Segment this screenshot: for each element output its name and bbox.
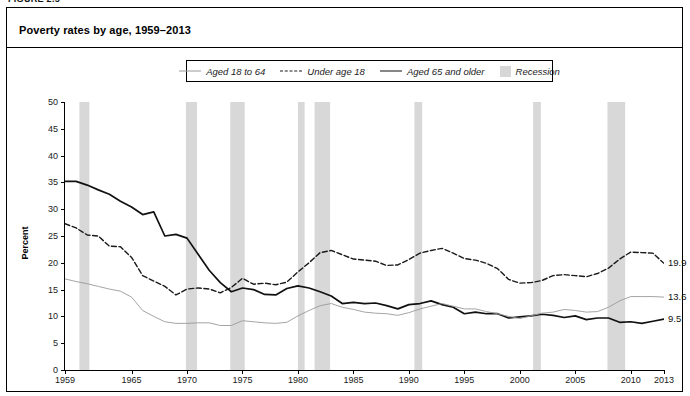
recession-band: [230, 102, 244, 370]
recession-band: [315, 102, 331, 370]
x-axis-tick-label: 1980: [288, 375, 308, 385]
aged-18-64-end-label: 13.6: [668, 291, 687, 302]
y-axis-tick-label: 30: [38, 204, 58, 214]
title-divider: [7, 47, 682, 48]
recession-band: [607, 102, 625, 370]
x-axis-tick-label: 1975: [232, 375, 252, 385]
x-axis-tick-label: 2000: [510, 375, 530, 385]
y-axis-tick-label: 0: [38, 365, 58, 375]
legend-label: Recession: [516, 66, 560, 77]
y-axis-tick-label: 40: [38, 151, 58, 161]
x-axis-tick-mark: [631, 370, 632, 374]
y-axis-tick-label: 15: [38, 285, 58, 295]
x-axis-tick-label: 1990: [399, 375, 419, 385]
plot-area: [65, 102, 664, 370]
y-axis-tick-label: 50: [38, 97, 58, 107]
series-line: [65, 279, 664, 326]
y-axis-tick-label: 25: [38, 231, 58, 241]
y-axis-tick-label: 35: [38, 177, 58, 187]
line-solid-icon: [380, 68, 402, 74]
y-axis-tick-label: 20: [38, 258, 58, 268]
legend-item-aged-65-and-older[interactable]: Aged 65 and older: [380, 66, 485, 77]
y-axis-tick-label: 45: [38, 124, 58, 134]
x-axis-tick-label: 1965: [122, 375, 142, 385]
figure-root: FIGURE 2.5 Poverty rates by age, 1959–20…: [0, 0, 690, 396]
line-thin-icon: [179, 68, 201, 74]
legend-label: Aged 65 and older: [407, 66, 485, 77]
x-axis-tick-mark: [132, 370, 133, 374]
chart-canvas: [65, 102, 664, 370]
series-line: [65, 181, 664, 323]
x-axis-tick-mark: [65, 370, 66, 374]
x-axis-tick-mark: [298, 370, 299, 374]
recession-band: [414, 102, 422, 370]
x-axis-tick-mark: [353, 370, 354, 374]
recession-band: [533, 102, 541, 370]
x-axis-tick-label: 1985: [343, 375, 363, 385]
legend-item-under-age-18[interactable]: Under age 18: [280, 66, 365, 77]
x-axis-tick-mark: [575, 370, 576, 374]
figure-number: FIGURE 2.5: [8, 0, 60, 4]
x-axis-tick-mark: [242, 370, 243, 374]
x-axis-tick-label: 2005: [565, 375, 585, 385]
x-axis-tick-mark: [464, 370, 465, 374]
y-axis-tick-label: 10: [38, 311, 58, 321]
y-axis-tick-label: 5: [38, 338, 58, 348]
y-axis-title: Percent: [18, 208, 32, 278]
recession-band: [298, 102, 305, 370]
x-axis-tick-label: 2010: [621, 375, 641, 385]
aged-65-older-end-label: 9.5: [668, 313, 681, 324]
x-axis-tick-label: 1995: [454, 375, 474, 385]
page-title: Poverty rates by age, 1959–2013: [19, 24, 191, 36]
x-axis-tick-mark: [187, 370, 188, 374]
legend-item-aged-18-to-64[interactable]: Aged 18 to 64: [179, 66, 265, 77]
legend-item-recession[interactable]: Recession: [500, 66, 560, 77]
series-line: [65, 224, 664, 295]
x-axis-tick-mark: [520, 370, 521, 374]
recession-band: [186, 102, 197, 370]
legend-label: Aged 18 to 64: [206, 66, 265, 77]
legend-label: Under age 18: [307, 66, 365, 77]
x-axis-tick-mark: [409, 370, 410, 374]
x-axis-tick-label: 2013: [654, 375, 674, 385]
x-axis-tick-mark: [664, 370, 665, 374]
shaded-box-icon: [500, 66, 511, 77]
under-18-end-label: 19.9: [668, 257, 687, 268]
chart-legend: Aged 18 to 64 Under age 18 Aged 65 and o…: [186, 60, 553, 82]
x-axis-tick-label: 1959: [55, 375, 75, 385]
line-dashed-icon: [280, 68, 302, 74]
recession-band: [79, 102, 89, 370]
x-axis-tick-label: 1970: [177, 375, 197, 385]
